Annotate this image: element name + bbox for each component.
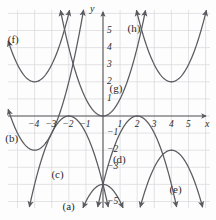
curve-label-g: (g) <box>110 83 123 94</box>
x-axis-label: x <box>205 119 209 129</box>
y-tick-4: 4 <box>107 43 112 53</box>
x-tick--4: −4 <box>28 120 39 130</box>
y-axis-label: y <box>90 4 94 14</box>
x-tick-2: 2 <box>135 120 140 130</box>
x-tick-4: 4 <box>169 120 174 130</box>
y-tick-5: 5 <box>107 26 112 36</box>
parabola-b <box>8 10 83 150</box>
curve-label-a: (a) <box>63 201 75 212</box>
curve-label-b: (b) <box>5 133 18 144</box>
y-tick-1: 1 <box>107 94 112 104</box>
y-tick--1: −1 <box>107 128 118 138</box>
x-tick--3: −3 <box>45 120 56 130</box>
x-tick-5: 5 <box>186 120 191 130</box>
parabola-curves <box>8 10 206 207</box>
y-tick--5: −5 <box>107 197 118 207</box>
curve-label-e: (e) <box>169 184 181 195</box>
y-tick-3: 3 <box>107 60 112 70</box>
x-tick--1: −1 <box>79 120 90 130</box>
x-tick-3: 3 <box>152 120 157 130</box>
parabola-graph-figure: −4−3−2−11234554321−1−2−3−5 (a)(b)(c)(d)(… <box>0 0 216 220</box>
grid-lines <box>8 10 210 208</box>
curve-label-f: (f) <box>8 34 19 45</box>
curve-label-d: (d) <box>113 154 126 165</box>
curve-label-c: (c) <box>51 169 63 180</box>
x-tick--2: −2 <box>62 120 73 130</box>
curve-label-h: (h) <box>127 23 140 34</box>
x-tick-1: 1 <box>118 120 123 130</box>
